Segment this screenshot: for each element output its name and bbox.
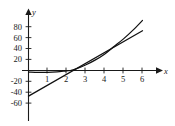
y-tick-label: -60	[11, 98, 22, 108]
y-tick-label: -40	[11, 87, 22, 97]
x-axis-arrow	[156, 67, 163, 73]
curve-series	[29, 20, 143, 72]
x-tick-label: 6	[140, 74, 144, 84]
data-series-group	[29, 20, 143, 96]
y-tick-label: 80	[14, 22, 23, 32]
y-tick-label: -20	[11, 76, 22, 86]
y-tick-label: 60	[14, 33, 23, 43]
x-axis-tick-labels: 1 2 3 4 5 6	[45, 74, 144, 84]
x-tick-label: 5	[121, 74, 125, 84]
x-axis: 1 2 3 4 5 6 x	[22, 66, 168, 85]
x-tick-label: 4	[102, 74, 107, 84]
y-axis-label: y	[31, 7, 36, 17]
x-tick-label: 3	[83, 74, 87, 84]
x-axis-label: x	[163, 66, 168, 76]
x-tick-label: 1	[45, 74, 49, 84]
y-axis-tick-labels: 80 60 40 20 -20 -40 -60	[11, 22, 22, 108]
y-tick-label: 40	[14, 43, 23, 53]
chart-plot: 1 2 3 4 5 6 x 80	[0, 0, 175, 126]
y-tick-label: 20	[14, 54, 23, 64]
y-axis: 80 60 40 20 -20 -40 -60 y	[11, 7, 36, 121]
y-axis-arrow	[25, 9, 31, 16]
tangent-line-series	[29, 31, 143, 96]
figure-container: 1 2 3 4 5 6 x 80	[0, 0, 175, 126]
